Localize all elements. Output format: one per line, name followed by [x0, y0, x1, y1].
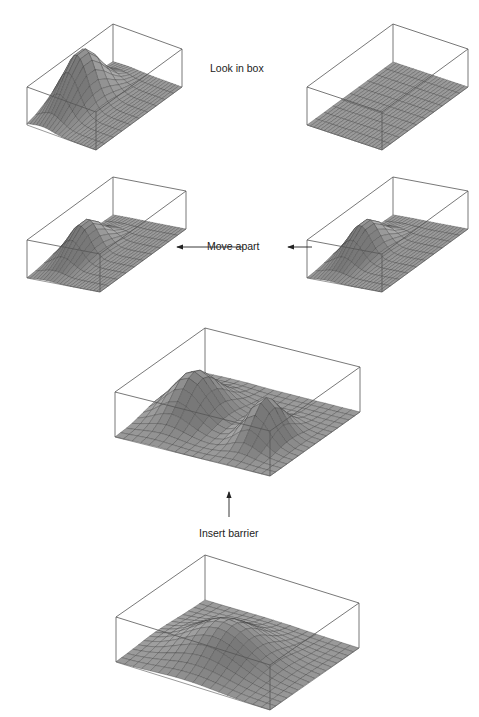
move-apart-label: Move apart [207, 240, 260, 252]
figure-canvas [0, 0, 479, 717]
box-middle-right [307, 177, 468, 292]
insert-barrier-label: Insert barrier [199, 527, 259, 539]
box-two-peaks [115, 328, 360, 476]
box-middle-left [27, 177, 186, 292]
look-in-box-label: Look in box [210, 62, 264, 74]
box-top-left [27, 24, 182, 150]
box-top-right [307, 24, 468, 150]
box-bottom-single-peak [116, 555, 359, 710]
